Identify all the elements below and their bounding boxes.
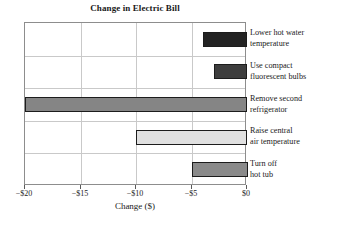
gridline-horizontal — [25, 121, 245, 122]
category-label-line: Remove second — [250, 93, 343, 104]
category-label-line: refrigerator — [250, 104, 343, 115]
category-label-line: air temperature — [250, 136, 343, 147]
plot-area — [24, 22, 246, 185]
bar — [192, 162, 248, 177]
category-label-line: temperature — [250, 38, 343, 49]
category-label: Lower hot watertemperature — [250, 27, 343, 49]
category-label-line: Raise central — [250, 125, 343, 136]
tick-label: $0 — [226, 189, 266, 198]
tick-label: −$15 — [60, 189, 100, 198]
tick-label: −$20 — [4, 189, 44, 198]
category-label: Raise centralair temperature — [250, 125, 343, 147]
category-label-line: Turn off — [250, 158, 343, 169]
bar — [25, 97, 247, 112]
category-label: Use compactfluorescent bulbs — [250, 60, 343, 82]
chart-title: Change in Electric Bill — [24, 3, 246, 13]
bar — [136, 130, 247, 145]
x-axis-label: Change ($) — [24, 201, 246, 211]
tick-label: −$5 — [171, 189, 211, 198]
category-label-line: hot tub — [250, 169, 343, 180]
tick-label: −$10 — [115, 189, 155, 198]
gridline-horizontal — [25, 153, 245, 154]
chart-screenshot: Change in Electric Bill −$20−$15−$10−$5$… — [0, 0, 343, 225]
category-label-line: fluorescent bulbs — [250, 71, 343, 82]
category-label: Remove secondrefrigerator — [250, 93, 343, 115]
category-label: Turn offhot tub — [250, 158, 343, 180]
bar — [203, 32, 247, 47]
category-label-line: Lower hot water — [250, 27, 343, 38]
category-label-line: Use compact — [250, 60, 343, 71]
gridline-horizontal — [25, 56, 245, 57]
bar — [214, 64, 247, 79]
gridline-horizontal — [25, 88, 245, 89]
